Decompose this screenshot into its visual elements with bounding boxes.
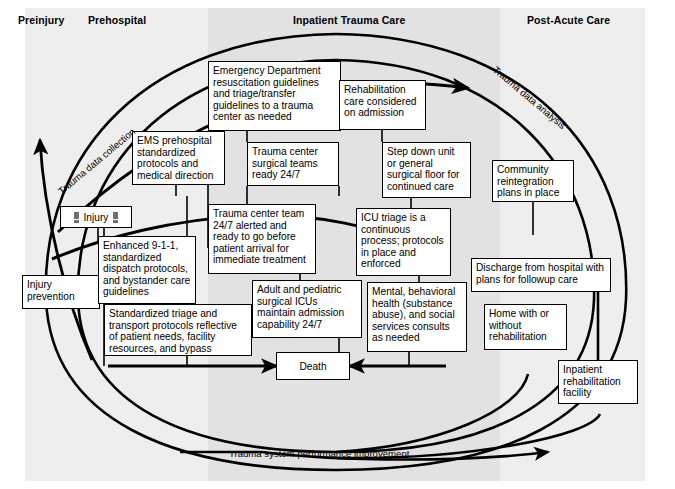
node-trauma-center-team[interactable]: Trauma center team 24/7 alerted and read… — [208, 204, 316, 274]
label-performance-improvement: Trauma system performance improvement — [229, 448, 409, 459]
node-enhanced-911[interactable]: Enhanced 9-1-1, standardized dispatch pr… — [98, 236, 196, 304]
node-trauma-surgical-teams[interactable]: Trauma center surgical teams ready 24/7 — [247, 142, 339, 186]
node-death[interactable]: Death — [276, 352, 350, 380]
node-step-down-unit[interactable]: Step down unit or general surgical floor… — [382, 142, 471, 198]
node-icu-triage[interactable]: ICU triage is a continuous process; prot… — [356, 208, 451, 276]
node-mental-behavioral[interactable]: Mental, behavioral health (substance abu… — [367, 282, 467, 352]
node-rehabilitation-care[interactable]: Rehabilitation care considered on admiss… — [339, 80, 426, 130]
warning-icon-right — [112, 212, 119, 223]
node-community-reintegration[interactable]: Community reintegration plans in place — [492, 160, 574, 202]
node-injury-label: Injury — [84, 212, 109, 223]
node-home-with-without-rehab[interactable]: Home with or without rehabilitation — [484, 304, 567, 350]
warning-icon-left — [73, 212, 80, 223]
node-inpatient-rehab[interactable]: Inpatient rehabilitation facility — [558, 360, 638, 404]
node-standardized-triage[interactable]: Standardized triage and transport protoc… — [104, 304, 252, 356]
node-emergency-department[interactable]: Emergency Department resuscitation guide… — [208, 61, 341, 131]
node-ems-prehospital[interactable]: EMS prehospital standardized protocols a… — [132, 131, 225, 185]
trauma-system-diagram: Preinjury Prehospital Inpatient Trauma C… — [0, 0, 675, 489]
node-discharge[interactable]: Discharge from hospital with plans for f… — [471, 258, 611, 292]
node-injury[interactable]: Injury — [60, 206, 132, 228]
node-adult-pediatric-icu[interactable]: Adult and pediatric surgical ICUs mainta… — [252, 280, 362, 338]
node-injury-prevention[interactable]: Injury prevention — [22, 275, 100, 309]
